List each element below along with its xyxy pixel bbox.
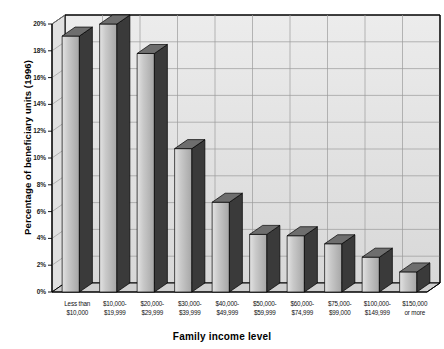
plot-area [0,0,444,349]
bar-5 [212,193,242,292]
x-tick-label-line: $150,000 [391,300,439,309]
y-tick-label: 10% [12,154,46,161]
y-tick-label: 18% [12,47,46,54]
y-tick-label: 6% [12,208,46,215]
bar-4 [175,140,205,292]
bar-2 [100,15,130,292]
bar-face [400,272,417,292]
x-tick-label: $150,000or more [391,300,439,317]
bar-1 [62,27,92,292]
y-tick-label: 4% [12,234,46,241]
bar-side [192,140,205,292]
bar-8 [325,235,355,292]
x-tick-label-line: or more [391,309,439,318]
bar-3 [137,44,167,292]
y-tick-label: 8% [12,181,46,188]
bar-face [100,24,117,292]
y-tick-label: 0% [12,288,46,295]
bar-face [362,257,379,292]
bar-side [304,227,317,292]
bar-side [154,44,167,292]
x-axis-title: Family income level [0,331,444,342]
bar-face [62,36,79,292]
bar-face [175,149,192,292]
y-tick-label: 2% [12,261,46,268]
y-tick-label: 14% [12,100,46,107]
bar-chart: Percentage of beneficiary units (1996) F… [0,0,444,349]
bar-face [212,202,229,292]
y-tick-label: 12% [12,127,46,134]
bar-9 [362,248,392,292]
bar-side [79,27,92,292]
bar-face [325,244,342,292]
bar-face [250,234,267,292]
bar-face [137,53,154,292]
bar-side [117,15,130,292]
bar-7 [287,227,317,292]
bar-face [287,236,304,292]
bar-6 [250,225,280,292]
bar-side [267,225,280,292]
bar-side [342,235,355,292]
bar-side [229,193,242,292]
y-tick-label: 16% [12,74,46,81]
y-tick-label: 20% [12,20,46,27]
